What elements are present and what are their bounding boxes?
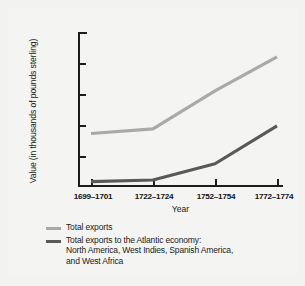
series-container bbox=[78, 32, 283, 187]
legend-line: and West Africa bbox=[66, 256, 233, 266]
y-axis-title: Value (in thousands of pounds sterling) bbox=[28, 26, 38, 196]
x-tick-label: 1722–1724 bbox=[135, 192, 173, 201]
x-tick-label: 1772–1774 bbox=[255, 192, 293, 201]
legend-line: Total exports to the Atlantic economy: bbox=[66, 235, 233, 245]
legend-item-total-exports: Total exports bbox=[46, 222, 296, 232]
legend-line: North America, West Indies, Spanish Amer… bbox=[66, 245, 233, 255]
legend-label: Total exports bbox=[66, 222, 112, 232]
plot-area: 8,000 6,000 4,000 2,000 1699–1701 1722–1… bbox=[78, 32, 283, 187]
legend-label: Total exports to the Atlantic economy: N… bbox=[66, 235, 233, 266]
x-tick-label: 1752–1754 bbox=[197, 192, 235, 201]
chart-plate: Value (in thousands of pounds sterling) … bbox=[8, 8, 297, 276]
chart-figure: Value (in thousands of pounds sterling) … bbox=[0, 0, 305, 286]
legend-line: Total exports bbox=[66, 222, 112, 232]
line-total-exports bbox=[91, 57, 277, 134]
x-tick-label: 1699–1701 bbox=[74, 192, 112, 201]
legend-swatch-line bbox=[46, 240, 61, 243]
x-axis-title: Year bbox=[78, 204, 283, 214]
legend-swatch-line bbox=[46, 227, 61, 230]
line-atlantic-economy bbox=[91, 126, 277, 182]
legend-item-atlantic-economy: Total exports to the Atlantic economy: N… bbox=[46, 235, 296, 266]
chart-legend: Total exports Total exports to the Atlan… bbox=[46, 222, 296, 269]
